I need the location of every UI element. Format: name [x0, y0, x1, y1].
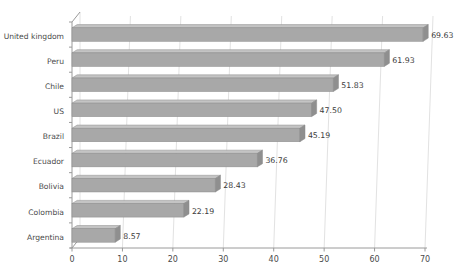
x-tick-label: 10: [117, 255, 127, 264]
bar: [72, 25, 428, 42]
bar-front-face: [72, 128, 300, 142]
bar-end-cap: [300, 125, 305, 142]
x-tick-label: 20: [168, 255, 178, 264]
x-tick-label: 30: [218, 255, 228, 264]
category-label: Chile: [45, 82, 64, 91]
bar-end-cap: [115, 225, 120, 242]
bar: [72, 225, 120, 242]
bar-top-face: [72, 225, 120, 228]
bar-front-face: [72, 53, 384, 67]
bar-end-cap: [257, 150, 262, 167]
bar: [72, 150, 262, 167]
category-label: Bolivia: [39, 182, 64, 191]
category-label: US: [54, 107, 65, 116]
bar: [72, 175, 220, 192]
bar-top-face: [72, 125, 305, 128]
bar-chart: United kingdomPeruChileUSBrazilEcuadorBo…: [0, 0, 454, 275]
bar-end-cap: [423, 25, 428, 42]
bar-front-face: [72, 229, 115, 243]
x-tick-label: 40: [269, 255, 279, 264]
bar-value-label: 61.93: [392, 56, 414, 65]
bar-top-face: [72, 150, 262, 153]
bar: [72, 125, 305, 142]
bar-top-face: [72, 200, 189, 203]
bar-top-face: [72, 50, 389, 53]
bar-end-cap: [215, 175, 220, 192]
bar-front-face: [72, 204, 184, 218]
bar-front-face: [72, 78, 333, 92]
bar: [72, 200, 189, 217]
bar-end-cap: [333, 75, 338, 92]
bar: [72, 100, 317, 117]
bar-top-face: [72, 75, 338, 78]
bar-value-label: 36.76: [265, 156, 287, 165]
x-tick-label: 50: [319, 255, 329, 264]
bar-top-face: [72, 25, 428, 28]
x-tick-label: 60: [369, 255, 379, 264]
bar-value-label: 22.19: [192, 207, 214, 216]
bar-value-label: 69.63: [431, 31, 453, 40]
category-label: Argentina: [27, 233, 64, 242]
category-label: United kingdom: [4, 32, 64, 41]
bar-top-face: [72, 100, 317, 103]
x-tick-label: 70: [420, 255, 430, 264]
bar-front-face: [72, 28, 423, 42]
bar-end-cap: [384, 50, 389, 67]
bar: [72, 75, 338, 92]
bar-value-label: 51.83: [341, 81, 363, 90]
bar-value-label: 28.43: [223, 181, 245, 190]
bar-front-face: [72, 103, 312, 117]
bar-value-label: 45.19: [308, 131, 330, 140]
category-label: Peru: [47, 57, 64, 66]
bar-end-cap: [184, 200, 189, 217]
bar-end-cap: [312, 100, 317, 117]
category-label: Ecuador: [33, 157, 65, 166]
category-label: Brazil: [43, 132, 64, 141]
bar-front-face: [72, 178, 215, 192]
chart-canvas: United kingdomPeruChileUSBrazilEcuadorBo…: [0, 0, 454, 275]
category-label: Colombia: [28, 208, 64, 217]
bar-value-label: 47.50: [320, 106, 342, 115]
bar-top-face: [72, 175, 220, 178]
x-tick-label: 0: [69, 255, 74, 264]
bar-front-face: [72, 153, 257, 167]
bar-value-label: 8.57: [123, 232, 140, 241]
bar: [72, 50, 389, 67]
